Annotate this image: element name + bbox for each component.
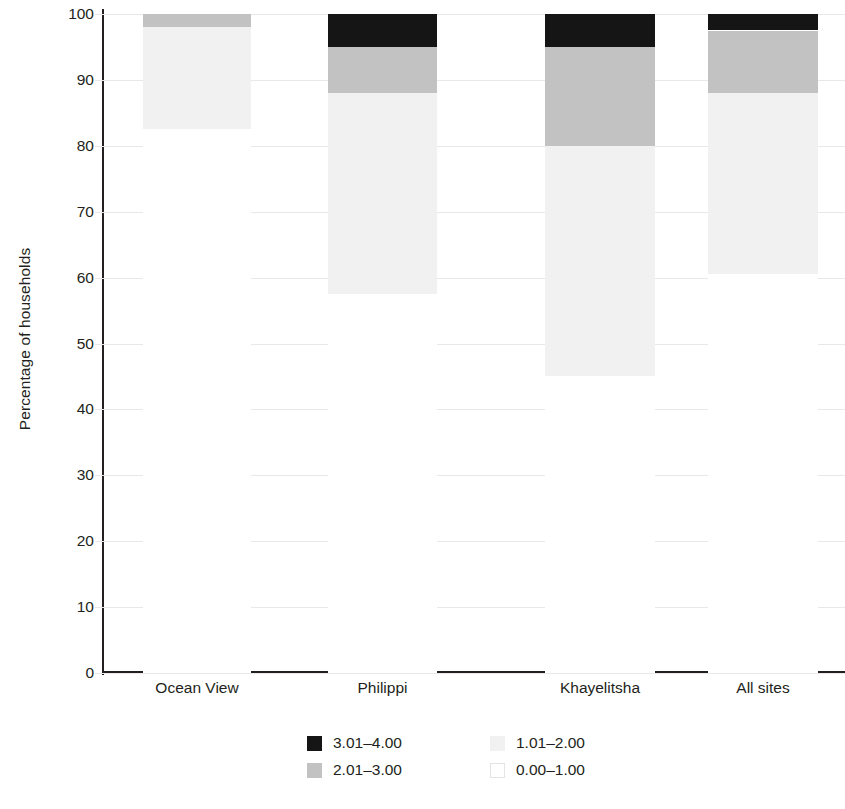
y-tick-label: 60: [20, 270, 94, 286]
bar-segment: [328, 47, 437, 93]
y-tick-label: 40: [20, 401, 94, 417]
bar-segment: [708, 93, 818, 274]
y-tick-label: 100: [20, 6, 94, 22]
legend-swatch-icon: [307, 736, 322, 751]
x-axis-category-labels: Ocean ViewPhilippiKhayelitshaAll sites: [104, 679, 845, 709]
bar-segment: [708, 274, 818, 673]
legend-label: 1.01–2.00: [516, 735, 585, 751]
legend-item[interactable]: 3.01–4.00: [307, 731, 402, 755]
y-tick-label: 10: [20, 599, 94, 615]
bar-segment: [328, 93, 437, 294]
legend-label: 3.01–4.00: [333, 735, 402, 751]
bar-philippi: [328, 14, 437, 673]
y-tick-label: 30: [20, 467, 94, 483]
x-axis-label: Khayelitsha: [505, 679, 695, 697]
bar-segment: [545, 14, 655, 47]
legend-label: 2.01–3.00: [333, 762, 402, 778]
gridline-0: [95, 673, 845, 674]
legend-item[interactable]: 2.01–3.00: [307, 758, 402, 782]
bar-ocean-view: [143, 14, 251, 673]
bar-segment: [545, 376, 655, 673]
y-tick-label: 0: [20, 665, 94, 681]
x-axis-label: All sites: [668, 679, 845, 697]
legend-swatch-icon: [490, 763, 505, 778]
bar-segment: [545, 47, 655, 146]
chart-legend: 3.01–4.001.01–2.002.01–3.000.00–1.00: [307, 731, 727, 791]
bar-segment: [143, 27, 251, 129]
y-tick-label: 70: [20, 204, 94, 220]
plot-area: [104, 14, 845, 673]
y-tick-label: 80: [20, 138, 94, 154]
y-tick-label: 20: [20, 533, 94, 549]
legend-swatch-icon: [490, 736, 505, 751]
y-tick-label: 50: [20, 336, 94, 352]
legend-item[interactable]: 0.00–1.00: [490, 758, 585, 782]
legend-swatch-icon: [307, 763, 322, 778]
y-axis-tick-labels: 0102030405060708090100: [0, 0, 94, 700]
bar-segment: [708, 31, 818, 94]
bar-segment: [143, 14, 251, 27]
bar-segment: [328, 14, 437, 47]
x-axis-label: Ocean View: [103, 679, 291, 697]
legend-label: 0.00–1.00: [516, 762, 585, 778]
bar-segment: [708, 14, 818, 30]
bar-khayelitsha: [545, 14, 655, 673]
bar-segment: [545, 146, 655, 377]
bar-all-sites: [708, 14, 818, 673]
bar-segment: [143, 129, 251, 673]
stacked-bar-chart: Percentage of households 010203040506070…: [0, 0, 845, 809]
bar-segment: [328, 294, 437, 673]
legend-item[interactable]: 1.01–2.00: [490, 731, 585, 755]
x-axis-label: Philippi: [288, 679, 477, 697]
y-tick-label: 90: [20, 72, 94, 88]
